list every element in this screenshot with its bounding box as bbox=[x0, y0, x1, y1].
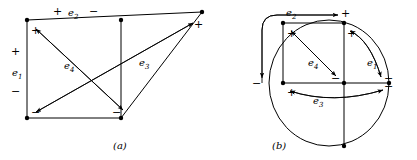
sign-e2-minus-b: − bbox=[252, 77, 261, 90]
arrow-e4-a-head-down bbox=[36, 29, 123, 110]
caption-b: (b) bbox=[272, 140, 286, 151]
label-e2-b-sub: 2 bbox=[291, 13, 297, 21]
panel-a-nodes bbox=[25, 10, 204, 120]
node-top-left bbox=[25, 18, 29, 22]
label-e1-a-sub: 1 bbox=[18, 73, 22, 81]
label-e3-a-sub: 3 bbox=[145, 63, 150, 71]
panel-a-labels: e 1 e 2 e 3 e 4 bbox=[12, 7, 150, 81]
node-b-top-mid bbox=[342, 21, 346, 25]
sign-e2-plus-a: + bbox=[53, 5, 62, 18]
node-top-mid bbox=[119, 18, 123, 22]
label-e4-b-sub: 4 bbox=[313, 63, 318, 71]
sign-e1-plus-a: + bbox=[11, 45, 20, 58]
arrow-e3-a-head-left bbox=[36, 23, 193, 112]
sign-e1-plus-b: + bbox=[347, 27, 356, 40]
label-e1-b-sub: 1 bbox=[373, 63, 377, 71]
arrow-e2-b-head-down bbox=[262, 15, 338, 78]
panel-a-signs: + − + − + − + − bbox=[11, 5, 203, 119]
label-e4-a-sub: 4 bbox=[69, 66, 74, 74]
node-bottom-left bbox=[25, 116, 29, 120]
sign-e3-plus-b: + bbox=[287, 86, 296, 99]
sign-e4-plus-b: + bbox=[287, 27, 296, 40]
figure-svg: e 1 e 2 e 3 e 4 + − + − + − + − bbox=[0, 0, 417, 160]
sign-e1-minus-a: − bbox=[11, 85, 20, 98]
caption-a: (a) bbox=[113, 140, 127, 151]
sign-e4-plus-a: + bbox=[31, 24, 40, 37]
sign-e3-minus-a: − bbox=[31, 106, 40, 119]
sign-e3-plus-a: + bbox=[194, 18, 203, 31]
label-e3-b-sub: 3 bbox=[319, 101, 324, 109]
sign-e4-minus-a: − bbox=[112, 106, 121, 119]
node-top-right bbox=[200, 10, 204, 14]
figure-captions: (a) (b) bbox=[113, 140, 286, 151]
panel-a-graph bbox=[25, 10, 204, 120]
sign-e3-minus-b: − bbox=[384, 80, 393, 93]
label-e2-a-sub: 2 bbox=[73, 13, 79, 21]
panel-b-graph bbox=[262, 15, 391, 148]
figure-root: e 1 e 2 e 3 e 4 + − + − + − + − bbox=[0, 0, 417, 160]
sign-e2-minus-a: − bbox=[89, 5, 98, 18]
sign-e4-minus-b: − bbox=[331, 72, 340, 85]
wire-diagonal-right bbox=[121, 12, 202, 118]
node-b-top-left bbox=[281, 21, 285, 25]
sign-e2-plus-b: + bbox=[341, 7, 350, 20]
node-b-bottom bbox=[342, 144, 346, 148]
node-b-mid-left bbox=[281, 81, 285, 85]
node-b-center bbox=[342, 81, 346, 85]
arrow-e2-b-head-right bbox=[262, 15, 338, 83]
arrow-e3-b-head-right bbox=[290, 90, 383, 98]
